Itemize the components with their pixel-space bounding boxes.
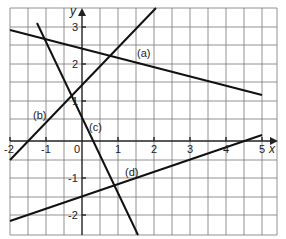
label-c: (c) (89, 121, 102, 133)
coordinate-plane-chart: -2 -1 0 1 2 3 4 5 3 2 1 -1 -2 x y (a) (b… (0, 0, 286, 239)
line-b (10, 8, 156, 160)
svg-text:1: 1 (72, 95, 78, 107)
label-b: (b) (33, 109, 46, 121)
svg-text:3: 3 (187, 143, 193, 155)
grid (10, 8, 277, 235)
svg-text:-1: -1 (41, 143, 51, 155)
x-axis-label: x (268, 142, 276, 156)
label-a: (a) (137, 47, 150, 59)
y-axis-label: y (69, 4, 77, 18)
y-tick-labels: 3 2 1 -1 -2 (68, 21, 78, 221)
svg-text:4: 4 (223, 143, 229, 155)
svg-text:3: 3 (72, 21, 78, 33)
svg-text:-1: -1 (68, 172, 78, 184)
svg-text:2: 2 (151, 143, 157, 155)
svg-text:-2: -2 (68, 209, 78, 221)
svg-text:2: 2 (72, 58, 78, 70)
axes (10, 10, 276, 235)
svg-text:-2: -2 (4, 143, 14, 155)
label-d: (d) (125, 166, 138, 178)
svg-text:0: 0 (74, 143, 80, 155)
line-c (37, 23, 138, 235)
svg-text:5: 5 (259, 143, 265, 155)
svg-text:1: 1 (115, 143, 121, 155)
y-axis-arrow-icon (78, 8, 86, 16)
x-tick-labels: -2 -1 0 1 2 3 4 5 (4, 143, 265, 155)
